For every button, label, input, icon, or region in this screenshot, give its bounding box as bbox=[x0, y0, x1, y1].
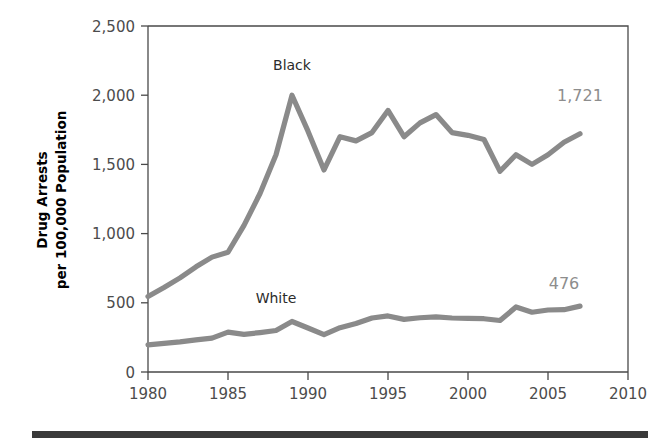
drug-arrests-line-chart: 05001,0001,5002,0002,500 198019851990199… bbox=[0, 0, 670, 445]
chart-page: 05001,0001,5002,0002,500 198019851990199… bbox=[0, 0, 670, 445]
series-label-black: Black bbox=[273, 57, 312, 73]
plot-frame bbox=[148, 26, 628, 372]
series-label-white: White bbox=[256, 290, 297, 306]
y-axis-title-line2: per 100,000 Population bbox=[53, 111, 69, 290]
x-tick-label: 1995 bbox=[369, 385, 407, 403]
end-value-label-black: 1,721 bbox=[557, 86, 603, 105]
y-tick-label: 1,000 bbox=[92, 225, 135, 243]
plot-frame-path bbox=[148, 26, 628, 372]
x-tick-label: 1990 bbox=[289, 385, 327, 403]
end-value-label-white: 476 bbox=[549, 274, 580, 293]
x-tick-label: 1980 bbox=[129, 385, 167, 403]
x-tick-label: 2010 bbox=[609, 385, 647, 403]
y-tick-label: 1,500 bbox=[92, 156, 135, 174]
x-axis-ticks: 1980198519901995200020052010 bbox=[129, 372, 647, 403]
y-tick-label: 2,000 bbox=[92, 87, 135, 105]
chart-canvas: 05001,0001,5002,0002,500 198019851990199… bbox=[0, 0, 670, 445]
y-axis-ticks: 05001,0001,5002,0002,500 bbox=[92, 18, 148, 382]
series-annotations-group: Black1,721White476 bbox=[256, 57, 603, 306]
x-tick-label: 2000 bbox=[449, 385, 487, 403]
y-tick-label: 2,500 bbox=[92, 18, 135, 36]
y-tick-label: 500 bbox=[106, 294, 135, 312]
y-axis-title-line1: Drug Arrests bbox=[34, 151, 50, 248]
y-tick-label: 0 bbox=[125, 364, 135, 382]
plot-axes-path bbox=[148, 26, 628, 372]
data-series-group bbox=[148, 95, 580, 345]
series-line-white bbox=[148, 306, 580, 345]
footer-rule bbox=[32, 431, 648, 438]
x-tick-label: 1985 bbox=[209, 385, 247, 403]
series-line-black bbox=[148, 95, 580, 296]
x-tick-label: 2005 bbox=[529, 385, 567, 403]
y-axis-title: Drug Arrests per 100,000 Population bbox=[34, 111, 69, 290]
